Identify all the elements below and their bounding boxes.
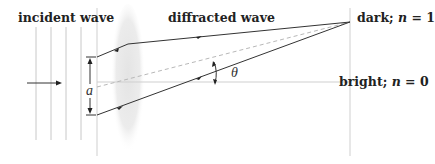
dark-order-label: dark; n = 1 bbox=[357, 10, 435, 25]
incident-wave-label: incident wave bbox=[18, 10, 114, 25]
angle-symbol: θ bbox=[231, 65, 238, 81]
slit-width-symbol: a bbox=[86, 84, 93, 98]
diffracted-wave-label: diffracted wave bbox=[168, 10, 275, 25]
bright-order-label: bright; n = 0 bbox=[339, 74, 429, 89]
